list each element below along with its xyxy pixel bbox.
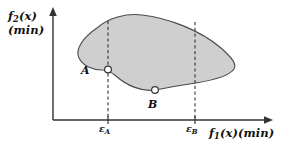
tick-label-epsilon-a-subscript: A: [105, 128, 110, 136]
point-A-label: A: [81, 64, 90, 77]
x-axis-label: f1(x)(min): [209, 127, 274, 141]
y-axis-label-arg: (x): [19, 9, 37, 23]
pareto-region-figure: f2(x) (min) f1(x)(min) A B εA εB: [0, 0, 292, 151]
y-axis-label: f2(x) (min): [8, 10, 44, 36]
point-B-label: B: [148, 98, 157, 111]
y-axis-label-units: (min): [8, 24, 44, 36]
x-axis-arrowhead: [264, 116, 273, 124]
x-axis-label-arg: (x)(min): [220, 126, 274, 140]
feasible-region-shape: [78, 15, 235, 91]
tick-label-epsilon-b: εB: [186, 123, 198, 136]
point-A-marker: [105, 66, 112, 73]
point-B-marker: [152, 87, 159, 94]
tick-label-epsilon-a: εA: [99, 123, 110, 136]
y-axis-arrowhead: [49, 7, 57, 16]
tick-label-epsilon-b-subscript: B: [192, 128, 198, 136]
